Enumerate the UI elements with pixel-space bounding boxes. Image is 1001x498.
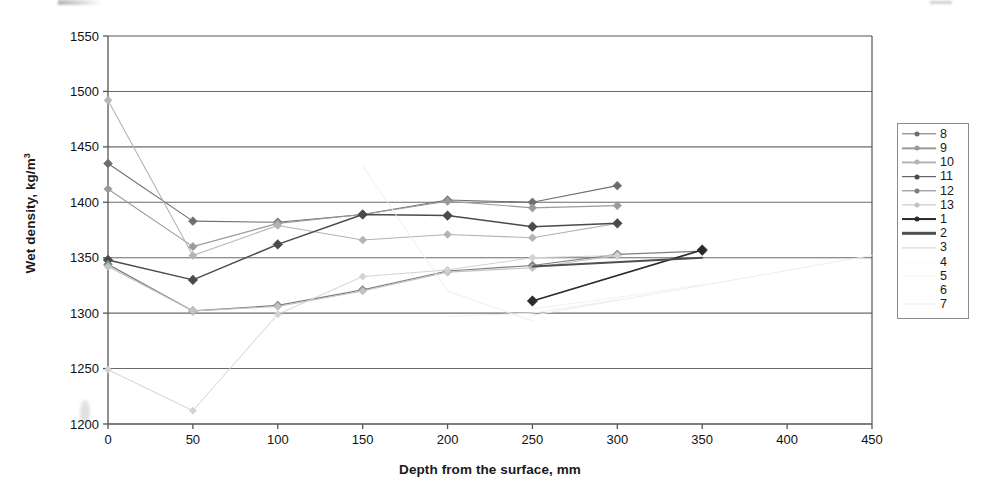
gridlines — [108, 91, 872, 368]
series-marker-11 — [528, 222, 538, 232]
legend-label-1: 1 — [936, 213, 947, 226]
legend-swatch-2 — [902, 227, 936, 239]
series-marker-11 — [273, 240, 283, 250]
series-marker-10 — [444, 230, 452, 238]
legend-swatch-9 — [902, 142, 936, 154]
legend-swatch-4 — [902, 256, 936, 268]
legend-label-13: 13 — [936, 199, 954, 212]
chart-legend: 89101112131234567 — [897, 123, 969, 319]
legend-item-10[interactable]: 10 — [898, 155, 968, 169]
legend-label-3: 3 — [936, 241, 947, 254]
series-marker-11 — [358, 210, 368, 220]
legend-marker-icon — [915, 174, 920, 179]
legend-marker-icon — [915, 160, 920, 165]
legend-swatch-3 — [902, 242, 936, 254]
legend-item-13[interactable]: 13 — [898, 198, 968, 212]
legend-label-10: 10 — [936, 156, 954, 169]
legend-swatch-12 — [902, 185, 936, 197]
x-tick-label: 400 — [776, 432, 798, 447]
legend-swatch-8 — [902, 128, 936, 140]
series-3 — [104, 252, 621, 414]
series-marker-3 — [359, 273, 366, 280]
series-marker-11 — [613, 219, 623, 229]
legend-swatch-5 — [902, 270, 936, 282]
legend-line-icon — [902, 261, 936, 262]
legend-label-4: 4 — [936, 256, 947, 269]
series-marker-8 — [613, 181, 622, 190]
legend-swatch-1 — [902, 213, 936, 225]
series-marker-1 — [527, 296, 537, 306]
legend-label-8: 8 — [936, 128, 947, 141]
legend-item-6[interactable]: 6 — [898, 283, 968, 297]
series-marker-13 — [189, 307, 197, 315]
series-marker-10 — [359, 236, 367, 244]
series-line-6 — [532, 284, 702, 308]
series-marker-10 — [189, 251, 197, 259]
legend-swatch-13 — [902, 199, 936, 211]
series-marker-11 — [188, 275, 198, 285]
data-series-group — [103, 96, 872, 414]
x-tick-label: 250 — [522, 432, 544, 447]
series-marker-11 — [443, 211, 453, 221]
legend-label-5: 5 — [936, 270, 947, 283]
legend-item-2[interactable]: 2 — [898, 226, 968, 240]
y-tick-label: 1550 — [70, 29, 99, 44]
legend-item-1[interactable]: 1 — [898, 212, 968, 226]
series-marker-10 — [528, 234, 536, 242]
series-4 — [363, 166, 533, 321]
x-tick-label: 300 — [606, 432, 628, 447]
series-marker-3 — [529, 254, 536, 261]
x-tick-label: 350 — [691, 432, 713, 447]
legend-label-6: 6 — [936, 284, 947, 297]
legend-marker-icon — [915, 146, 920, 151]
legend-item-12[interactable]: 12 — [898, 184, 968, 198]
series-marker-9 — [528, 204, 536, 212]
series-marker-3 — [104, 366, 111, 373]
x-tick-label: 450 — [861, 432, 883, 447]
x-tick-label: 150 — [352, 432, 374, 447]
series-marker-1 — [697, 245, 707, 255]
y-tick-label: 1350 — [70, 250, 99, 265]
legend-item-9[interactable]: 9 — [898, 141, 968, 155]
legend-swatch-7 — [902, 298, 936, 310]
y-tick-label: 1300 — [70, 306, 99, 321]
legend-marker-icon — [915, 217, 920, 222]
legend-item-8[interactable]: 8 — [898, 127, 968, 141]
y-tick-label: 1400 — [70, 195, 99, 210]
legend-line-icon — [902, 304, 936, 305]
x-tick-label: 0 — [104, 432, 111, 447]
legend-line-icon — [902, 232, 936, 234]
series-marker-9 — [104, 185, 112, 193]
legend-line-icon — [902, 290, 936, 291]
legend-item-7[interactable]: 7 — [898, 297, 968, 311]
x-tick-label: 50 — [186, 432, 200, 447]
legend-item-4[interactable]: 4 — [898, 255, 968, 269]
x-tick-label: 100 — [267, 432, 289, 447]
legend-label-11: 11 — [936, 170, 953, 183]
series-line-11 — [108, 214, 617, 279]
series-6 — [532, 284, 702, 308]
series-marker-8 — [188, 217, 197, 226]
y-tick-label: 1500 — [70, 84, 99, 99]
series-marker-10 — [104, 96, 112, 104]
legend-swatch-11 — [902, 171, 936, 183]
legend-swatch-10 — [902, 156, 936, 168]
legend-item-11[interactable]: 11 — [898, 170, 968, 184]
y-tick-label: 1450 — [70, 139, 99, 154]
legend-marker-icon — [915, 203, 920, 208]
series-13 — [104, 251, 621, 314]
y-tick-label: 1200 — [70, 417, 99, 432]
legend-marker-icon — [915, 188, 920, 193]
y-tick-label: 1250 — [70, 361, 99, 376]
series-10 — [104, 96, 621, 259]
legend-marker-icon — [915, 132, 920, 137]
legend-item-5[interactable]: 5 — [898, 269, 968, 283]
legend-label-7: 7 — [936, 298, 947, 311]
x-axis-title: Depth from the surface, mm — [108, 462, 872, 477]
wet-density-line-chart: Wet density, kg/m3 120012501300135014001… — [0, 0, 1001, 498]
legend-item-3[interactable]: 3 — [898, 241, 968, 255]
legend-swatch-6 — [902, 284, 936, 296]
legend-line-icon — [902, 276, 936, 277]
legend-label-2: 2 — [936, 227, 947, 240]
x-tick-label: 200 — [437, 432, 459, 447]
